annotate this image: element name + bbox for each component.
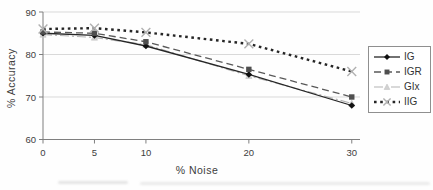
legend-item-igr: IGR xyxy=(373,65,428,79)
y-tick-label: 60 xyxy=(25,134,36,145)
legend-label-igr: IGR xyxy=(404,67,422,77)
diamond-marker xyxy=(384,54,390,60)
y-tick-label: 80 xyxy=(25,49,36,60)
scan-shadow-artifact xyxy=(140,182,430,185)
diamond-marker xyxy=(348,102,355,109)
legend-line-sample-igr xyxy=(373,66,401,78)
x-tick-label: 30 xyxy=(346,147,357,158)
y-tick-label: 70 xyxy=(25,92,36,103)
y-axis-title: % Accuracy xyxy=(5,48,17,108)
legend-item-gix: GIx xyxy=(373,80,428,94)
square-marker xyxy=(385,69,390,74)
legend-line-sample-ig xyxy=(373,51,401,63)
y-tick-label: 90 xyxy=(25,7,36,18)
triangle-marker xyxy=(384,84,390,89)
line-chart-figure: 6070809005102030 % Accuracy % Noise IG I… xyxy=(0,0,433,190)
square-marker xyxy=(92,31,97,36)
chart-legend: IG IGR GIx IIG xyxy=(368,46,431,113)
x-tick-label: 0 xyxy=(40,147,45,158)
series-line-ig xyxy=(43,33,352,105)
x-tick-label: 20 xyxy=(244,147,255,158)
x-cross-marker xyxy=(244,39,253,48)
square-marker xyxy=(349,94,354,99)
legend-label-gix: GIx xyxy=(404,82,420,92)
series-line-igr xyxy=(43,32,352,97)
series-line-gix xyxy=(43,35,352,104)
legend-line-sample-gix xyxy=(373,81,401,93)
x-tick-label: 5 xyxy=(92,147,97,158)
x-cross-marker xyxy=(383,99,390,106)
legend-line-sample-iig xyxy=(373,96,401,108)
square-marker xyxy=(143,39,148,44)
legend-item-iig: IIG xyxy=(373,95,428,109)
x-axis-title: % Noise xyxy=(152,164,242,176)
legend-label-iig: IIG xyxy=(404,97,417,107)
legend-item-ig: IG xyxy=(373,50,428,64)
x-tick-label: 10 xyxy=(141,147,152,158)
square-marker xyxy=(246,67,251,72)
scan-shadow-artifact xyxy=(58,181,128,184)
legend-label-ig: IG xyxy=(404,52,415,62)
